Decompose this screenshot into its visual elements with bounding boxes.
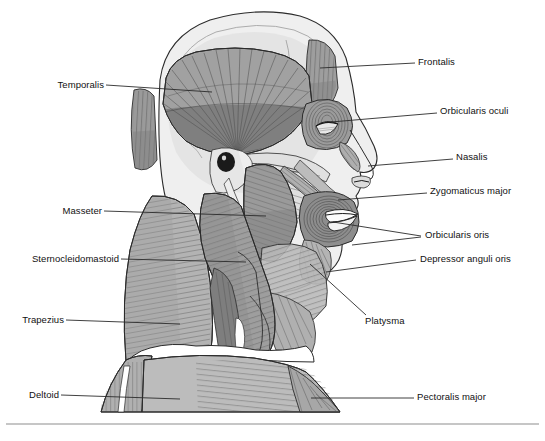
- ear-canal-opening: [217, 152, 235, 172]
- label-zygomaticus-major: Zygomaticus major: [430, 185, 511, 196]
- label-temporalis: Temporalis: [0, 79, 104, 90]
- label-depressor-anguli-oris: Depressor anguli oris: [420, 253, 511, 264]
- anatomical-illustration: [0, 0, 545, 441]
- label-pectoralis-major: Pectoralis major: [417, 391, 486, 402]
- label-deltoid: Deltoid: [0, 389, 59, 400]
- label-trapezius: Trapezius: [0, 314, 64, 325]
- orbicularis-oris-muscle: [299, 192, 359, 247]
- label-platysma: Platysma: [365, 315, 404, 326]
- orbicularis-oculi-muscle: [302, 99, 353, 149]
- figure-canvas: Frontalis Orbicularis oculi Nasalis Zygo…: [0, 0, 545, 441]
- label-orbicularis-oculi: Orbicularis oculi: [440, 105, 508, 116]
- label-sternocleidomastoid: Sternocleidomastoid: [0, 253, 119, 264]
- label-masseter: Masseter: [0, 205, 102, 216]
- label-orbicularis-oris: Orbicularis oris: [425, 229, 489, 240]
- label-nasalis: Nasalis: [456, 151, 488, 162]
- label-frontalis: Frontalis: [418, 56, 455, 67]
